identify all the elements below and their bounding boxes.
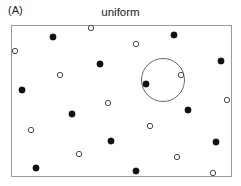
scatter-plot	[0, 0, 241, 186]
data-point-filled	[33, 165, 39, 171]
plot-frame	[12, 26, 232, 177]
data-point-open	[105, 100, 110, 105]
data-point-filled	[185, 107, 191, 113]
data-point-open	[224, 97, 229, 102]
data-point-open	[12, 48, 17, 53]
data-point-filled	[50, 34, 56, 40]
data-point-filled	[218, 58, 224, 64]
data-point-open	[210, 170, 215, 175]
data-point-open	[88, 25, 93, 30]
data-point-open	[57, 72, 62, 77]
data-point-open	[147, 123, 152, 128]
figure-panel: (A) uniform	[0, 0, 241, 186]
data-point-open	[28, 127, 33, 132]
data-point-open	[76, 151, 81, 156]
data-point-filled	[108, 138, 114, 144]
data-point-filled	[69, 111, 75, 117]
data-point-filled	[133, 168, 139, 174]
data-point-filled	[97, 61, 103, 67]
data-point-filled	[171, 32, 177, 38]
data-point-filled	[143, 81, 149, 87]
data-point-filled	[213, 139, 219, 145]
data-point-open	[174, 154, 179, 159]
data-point-open	[133, 41, 138, 46]
data-point-filled	[19, 87, 25, 93]
data-point-open	[178, 72, 183, 77]
